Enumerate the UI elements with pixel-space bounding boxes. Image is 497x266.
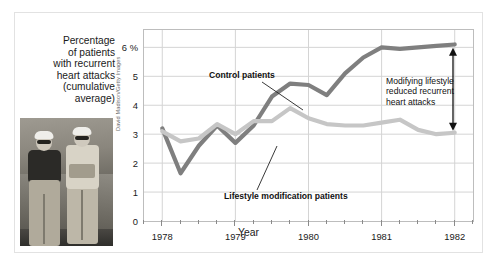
photo-left-leg-seam (43, 194, 45, 244)
x-tick-minor (198, 220, 199, 224)
x-tick-label: 1978 (152, 231, 173, 242)
photo-left-sunglasses (37, 140, 51, 144)
gap-arrow-head-up (449, 48, 457, 56)
y-tick-label: 1 (133, 187, 138, 198)
x-tick-label: 1982 (444, 231, 465, 242)
annotation-control-patients: Control patients (209, 70, 275, 80)
annotation-lifestyle-modification-patients: Lifestyle modification patients (224, 191, 348, 201)
x-axis-title: Year (238, 227, 259, 238)
x-tick-minor (326, 220, 327, 224)
photo-left-cap (35, 131, 54, 139)
x-tick-minor (362, 220, 363, 224)
y-tick-label: 5 (133, 71, 138, 82)
anglers-photo (20, 118, 113, 246)
y-axis-title-line: Percentage (23, 35, 115, 47)
photo-right-vest-pocket (69, 164, 95, 178)
x-tick-minor (399, 220, 400, 224)
y-axis-title-line: of patients (23, 47, 115, 59)
y-axis-title-line: average) (23, 93, 115, 105)
x-tick-major (234, 220, 235, 226)
y-tick-label: 4 (133, 100, 138, 111)
x-tick-major (308, 220, 309, 226)
photo-left-torso (28, 150, 61, 184)
figure-container: Percentage of patients with recurrent he… (14, 12, 483, 253)
gap-arrow-head-down (449, 123, 457, 131)
photo-right-leg-seam (81, 190, 83, 240)
photo-person-left (25, 134, 63, 244)
y-tick-label: 6 % (122, 42, 138, 53)
x-tick-minor (143, 220, 144, 224)
x-tick-minor (344, 220, 345, 224)
x-tick-minor (253, 220, 254, 224)
x-tick-minor (289, 220, 290, 224)
x-tick-minor (180, 220, 181, 224)
y-axis-title-line: heart attacks (23, 70, 115, 82)
y-axis-title-line: with recurrent (23, 58, 115, 70)
x-tick-minor (472, 220, 473, 224)
y-tick-label: 3 (133, 129, 138, 140)
x-tick-major (381, 220, 382, 226)
x-tick-label: 1980 (298, 231, 319, 242)
y-tick-label: 2 (133, 158, 138, 169)
x-tick-minor (271, 220, 272, 224)
photo-right-cap (73, 127, 92, 135)
x-tick-minor (216, 220, 217, 224)
y-axis-title-line: (cumulative (23, 81, 115, 93)
x-tick-minor (417, 220, 418, 224)
photo-person-right (60, 130, 104, 246)
photo-credit: David Madison/Getty Images (115, 57, 121, 131)
x-tick-label: 1981 (371, 231, 392, 242)
leader-line-lifestyle-patients (257, 146, 277, 190)
x-tick-major (454, 220, 455, 226)
annotation-gap-callout: Modifying lifestyle reduced recurrent he… (386, 76, 472, 107)
x-tick-major (161, 220, 162, 226)
y-tick-label: 0 (133, 216, 138, 227)
photo-right-sunglasses (75, 136, 89, 140)
plot-area-wrapper: 6 %543210 19781979198019811982 Control p… (143, 29, 474, 222)
x-tick-minor (435, 220, 436, 224)
y-axis-title: Percentage of patients with recurrent he… (23, 35, 115, 105)
